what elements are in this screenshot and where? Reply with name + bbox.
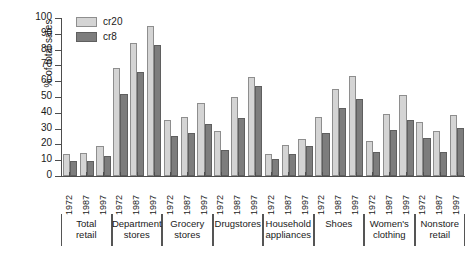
x-tick-label-year: 1972 [267, 195, 276, 215]
bar-cr8 [70, 161, 77, 176]
x-tick [322, 172, 323, 176]
x-tick [457, 172, 458, 176]
x-tick [204, 172, 205, 176]
x-tick [187, 172, 188, 176]
x-tick-label-year: 1997 [99, 195, 108, 215]
bar-cr8 [238, 118, 245, 176]
y-tick: 30 [55, 129, 61, 130]
y-tick-label: 70 [22, 58, 52, 69]
x-tick-label-year: 1987 [435, 195, 444, 215]
category-label-line: clothing [373, 229, 406, 240]
bar-cr8 [407, 120, 414, 176]
x-tick [389, 172, 390, 176]
y-tick-label: 40 [22, 106, 52, 117]
category-label-grocery-stores: Grocerystores [162, 214, 213, 246]
x-tick-label-year: 1997 [149, 195, 158, 215]
x-tick [305, 172, 306, 176]
bar-cr8 [221, 150, 228, 176]
bar-cr20 [181, 117, 188, 176]
y-tick-label: 80 [22, 43, 52, 54]
x-tick-label-year: 1997 [351, 195, 360, 215]
category-label-line: retail [76, 229, 97, 240]
bar-cr20 [416, 122, 423, 177]
y-tick: 10 [55, 160, 61, 161]
y-tick-label: 20 [22, 137, 52, 148]
category-label-line: appliances [266, 229, 311, 240]
x-tick [339, 172, 340, 176]
y-tick-label: 90 [22, 27, 52, 38]
category-label-household-appliances: Householdappliances [263, 214, 314, 246]
bar-cr20 [349, 76, 356, 176]
bar-cr8 [272, 159, 279, 176]
legend-label-cr8: cr8 [103, 32, 117, 42]
category-label-line: Drugstores [215, 218, 261, 229]
legend-swatch-cr20 [76, 17, 97, 27]
x-tick-label-year: 1997 [200, 195, 209, 215]
x-tick [356, 172, 357, 176]
y-tick: 90 [55, 34, 61, 35]
bar-cr20 [332, 89, 339, 176]
bar-cr8 [390, 130, 397, 176]
x-tick [406, 172, 407, 176]
category-label-shoes: Shoes [314, 214, 365, 246]
legend-entry-cr8: cr8 [76, 30, 122, 43]
x-tick-label-year: 1997 [402, 195, 411, 215]
x-tick-label-year: 1997 [250, 195, 259, 215]
y-tick-label: 10 [22, 153, 52, 164]
y-tick: 20 [55, 144, 61, 145]
x-tick-label-year: 1972 [317, 195, 326, 215]
x-tick [423, 172, 424, 176]
bar-cr20 [366, 141, 373, 176]
category-label-women-s-clothing: Women'sclothing [364, 214, 415, 246]
x-tick [86, 172, 87, 176]
bar-cr8 [457, 128, 464, 176]
x-tick [372, 172, 373, 176]
bar-cr20 [147, 26, 154, 176]
category-label-line: Department [112, 218, 162, 229]
y-tick-label: 50 [22, 90, 52, 101]
x-tick [271, 172, 272, 176]
x-tick-label-year: 1972 [166, 195, 175, 215]
category-label-line: Shoes [325, 218, 352, 229]
bar-cr20 [298, 139, 305, 176]
x-tick [120, 172, 121, 176]
bar-cr8 [255, 86, 262, 176]
x-tick-label-year: 1997 [452, 195, 461, 215]
bar-cr20 [113, 68, 120, 176]
bar-cr20 [315, 117, 322, 176]
bar-chart: % of total sales 0102030405060708090100 … [0, 0, 471, 257]
x-axis-year-labels: 1972198719971972198719971972198719971972… [61, 177, 465, 215]
category-label-total-retail: Totalretail [61, 214, 112, 246]
x-tick-label-year: 1997 [301, 195, 310, 215]
bar-cr8 [120, 94, 127, 176]
y-tick-label: 60 [22, 74, 52, 85]
bar-cr20 [450, 115, 457, 176]
x-tick-label-year: 1987 [385, 195, 394, 215]
x-tick [221, 172, 222, 176]
category-label-line: retail [429, 229, 450, 240]
x-tick-label-year: 1987 [132, 195, 141, 215]
category-label-line: Household [266, 218, 311, 229]
x-tick [238, 172, 239, 176]
x-tick-label-year: 1987 [334, 195, 343, 215]
bar-cr20 [433, 131, 440, 176]
x-tick [69, 172, 70, 176]
x-tick-label-year: 1987 [183, 195, 192, 215]
category-label-line: stores [124, 229, 150, 240]
x-tick-label-year: 1972 [418, 195, 427, 215]
legend-entry-cr20: cr20 [76, 15, 122, 28]
x-tick [154, 172, 155, 176]
bar-cr20 [231, 97, 238, 176]
y-tick: 70 [55, 65, 61, 66]
x-tick-label-year: 1987 [284, 195, 293, 215]
bar-cr8 [322, 133, 329, 176]
bar-cr8 [171, 136, 178, 176]
bar-cr8 [104, 156, 111, 176]
bar-cr8 [373, 152, 380, 176]
x-tick-label-year: 1987 [233, 195, 242, 215]
bar-cr8 [188, 133, 195, 176]
x-axis-category-labels: TotalretailDepartmentstoresGrocerystores… [61, 214, 465, 246]
y-tick-label: 30 [22, 122, 52, 133]
y-tick: 50 [55, 97, 61, 98]
x-tick [103, 172, 104, 176]
